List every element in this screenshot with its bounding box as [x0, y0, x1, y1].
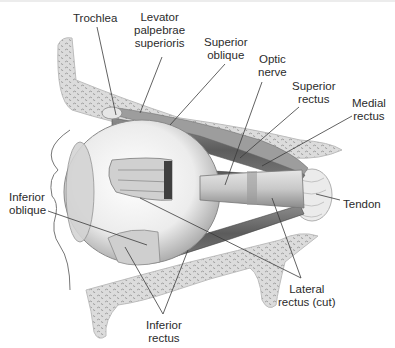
label-medial-rectus: Medial rectus	[352, 97, 386, 123]
label-tendon: Tendon	[343, 198, 381, 211]
label-lateral-rectus-cut: Lateral rectus (cut)	[278, 283, 336, 309]
label-inferior-oblique: Inferior oblique	[9, 191, 46, 217]
trochlea-structure	[102, 107, 122, 119]
label-superior-oblique: Superior oblique	[204, 36, 247, 62]
label-superior-rectus: Superior rectus	[292, 80, 335, 106]
label-levator-palpebrae-superioris: Levator palpebrae superioris	[134, 11, 185, 50]
label-inferior-rectus: Inferior rectus	[146, 319, 182, 345]
label-optic-nerve: Optic nerve	[258, 53, 287, 79]
label-trochlea: Trochlea	[73, 12, 117, 25]
